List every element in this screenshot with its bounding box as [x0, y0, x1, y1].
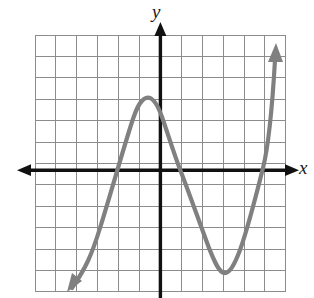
coordinate-plane-graphic [0, 0, 314, 298]
y-axis-top-arrowhead [154, 22, 166, 36]
x-axis-label: x [299, 158, 307, 177]
x-axis [17, 164, 299, 176]
y-axis [154, 22, 166, 298]
x-axis-left-arrowhead [17, 164, 31, 176]
y-axis-label: y [152, 2, 160, 21]
curve-upper-arrowhead [268, 43, 283, 62]
x-axis-right-arrowhead [285, 164, 299, 176]
graph-screenshot: y x [0, 0, 314, 298]
cubic-curve [67, 43, 283, 292]
